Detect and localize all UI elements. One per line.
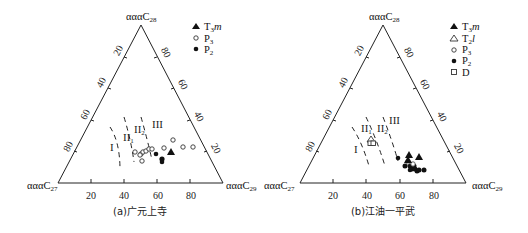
tick-right-80-b: 80 — [402, 45, 416, 59]
region-label-III-a: III — [152, 118, 163, 130]
tick-bottom-20-b: 20 — [328, 190, 338, 201]
tick-right-40-b: 40 — [435, 109, 449, 123]
legend-b: T3m T2l P3 P2 D — [450, 21, 480, 78]
region-label-III-b: III — [389, 114, 400, 126]
tick-right-60-a: 60 — [176, 77, 190, 91]
region-label-II1-b: II1 — [361, 122, 372, 136]
tick-right-20-b: 20 — [452, 141, 466, 155]
ternary-panel-b: 20 40 60 80 20 40 60 80 80 60 40 20 αααC… — [264, 11, 503, 217]
caption-a: (a)广元上寺 — [113, 206, 167, 217]
vertex-label-right-b: αααC29 — [472, 180, 503, 193]
tick-left-60-b: 60 — [320, 107, 334, 121]
tick-right-80-a: 80 — [159, 45, 173, 59]
tick-bottom-80-a: 80 — [186, 190, 196, 201]
region-label-II2-b: II2 — [377, 122, 388, 136]
legend-symbol-open-square — [452, 70, 457, 75]
legend-symbol-open-circle — [194, 36, 198, 40]
legend-symbol-open-circle — [452, 48, 456, 52]
vertex-label-right-a: αααC29 — [226, 180, 257, 193]
bottom-ticks-b — [333, 179, 433, 183]
vertex-label-top-a: αααC28 — [126, 11, 157, 24]
tick-left-40-a: 40 — [94, 75, 108, 89]
tick-bottom-60-a: 60 — [153, 190, 163, 201]
legend-a: T3m P3 P2 — [192, 21, 222, 57]
vertex-label-top-b: αααC28 — [369, 11, 400, 24]
tick-bottom-40-b: 40 — [362, 190, 372, 201]
tick-left-60-a: 60 — [78, 107, 92, 121]
tick-bottom-40-a: 40 — [119, 190, 129, 201]
tick-left-80-a: 80 — [61, 139, 75, 153]
bottom-ticks-a — [91, 179, 190, 183]
vertex-label-left-b: αααC27 — [264, 180, 295, 193]
legend-symbol-filled-triangle — [450, 23, 458, 29]
tick-left-20-b: 20 — [352, 43, 366, 57]
legend-symbol-open-triangle — [450, 35, 458, 41]
tick-bottom-60-b: 60 — [395, 190, 405, 201]
ternary-panel-a: 20 40 60 80 20 40 60 80 80 60 40 20 αααC… — [27, 11, 257, 217]
data-points-b — [367, 136, 427, 174]
tick-bottom-20-a: 20 — [86, 190, 96, 201]
region-label-II1-a: II1 — [123, 131, 134, 145]
legend-label-D-b: D — [462, 67, 470, 78]
region-label-I-a: I — [110, 141, 114, 153]
tick-left-80-b: 80 — [303, 139, 317, 153]
region-label-I-b: I — [354, 143, 358, 155]
tick-left-40-b: 40 — [336, 75, 350, 89]
tick-right-60-b: 60 — [418, 77, 432, 91]
tick-right-20-a: 20 — [209, 141, 223, 155]
legend-symbol-filled-circle — [452, 59, 457, 64]
tick-left-20-a: 20 — [111, 43, 125, 57]
vertex-label-left-a: αααC27 — [27, 180, 58, 193]
legend-symbol-filled-circle — [194, 47, 199, 52]
tick-bottom-80-b: 80 — [429, 190, 439, 201]
caption-b: (b)江油一平武 — [351, 205, 415, 217]
region-label-II2-a: II2 — [134, 123, 145, 137]
legend-symbol-filled-triangle — [192, 23, 200, 29]
tick-right-40-a: 40 — [192, 109, 206, 123]
data-points-a — [133, 138, 195, 165]
